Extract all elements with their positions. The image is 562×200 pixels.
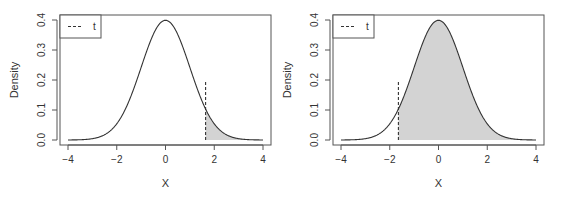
- chart-canvas: t−4−2024X0.00.10.20.30.4Densityt−4−2024X…: [0, 0, 562, 200]
- y-tick-label: 0.2: [36, 73, 47, 87]
- y-tick-label: 0.3: [309, 43, 320, 57]
- legend: t: [333, 15, 374, 38]
- chart-panel-1: t−4−2024X0.00.10.20.30.4Density: [8, 13, 271, 189]
- legend-label: t: [366, 21, 369, 32]
- y-tick-label: 0.0: [309, 133, 320, 147]
- x-axis-label: X: [435, 177, 443, 189]
- y-axis-label: Density: [281, 61, 293, 98]
- x-tick-label: −2: [111, 154, 123, 165]
- x-axis-label: X: [162, 177, 170, 189]
- y-tick-label: 0.4: [309, 13, 320, 27]
- x-tick-label: 2: [484, 154, 490, 165]
- legend-label: t: [93, 21, 96, 32]
- chart-panel-2: t−4−2024X0.00.10.20.30.4Density: [281, 13, 544, 189]
- x-tick-label: 4: [533, 154, 539, 165]
- x-tick-label: 4: [260, 154, 266, 165]
- y-tick-label: 0.3: [36, 43, 47, 57]
- x-tick-label: 0: [436, 154, 442, 165]
- y-tick-label: 0.0: [36, 133, 47, 147]
- x-tick-label: −4: [62, 154, 74, 165]
- x-tick-label: −2: [384, 154, 396, 165]
- x-tick-label: 2: [211, 154, 217, 165]
- y-tick-label: 0.1: [309, 103, 320, 117]
- y-axis-label: Density: [8, 61, 20, 98]
- x-tick-label: 0: [163, 154, 169, 165]
- y-tick-label: 0.2: [309, 73, 320, 87]
- y-tick-label: 0.4: [36, 13, 47, 27]
- x-tick-label: −4: [335, 154, 347, 165]
- legend: t: [60, 15, 101, 38]
- y-tick-label: 0.1: [36, 103, 47, 117]
